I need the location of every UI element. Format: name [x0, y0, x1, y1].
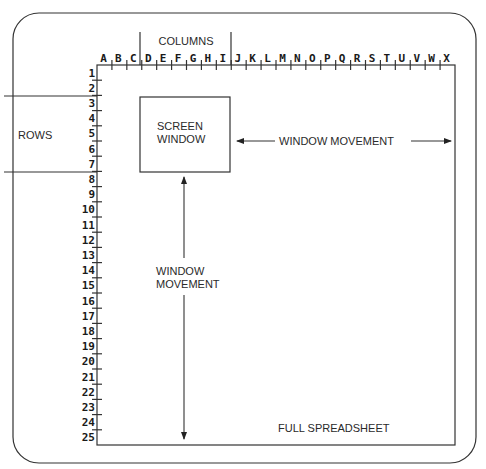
row-header: 11	[82, 219, 96, 232]
row-header: 25	[82, 431, 95, 444]
row-header: 16	[82, 295, 96, 308]
column-header: N	[294, 52, 301, 65]
row-header: 3	[88, 97, 95, 110]
row-header: 2	[88, 82, 95, 95]
row-header: 1	[88, 67, 95, 80]
horizontal-movement-label: WINDOW MOVEMENT	[279, 135, 394, 147]
column-headers: ABCDEFGHIJKLMNOPQRSTUVWX	[100, 52, 450, 65]
row-header: 13	[82, 249, 95, 262]
row-header: 15	[82, 279, 95, 292]
row-header: 22	[82, 386, 95, 399]
rows-label: ROWS	[18, 129, 52, 141]
row-header: 10	[82, 203, 95, 216]
vertical-movement-label-line2: MOVEMENT	[156, 278, 220, 290]
column-header: T	[384, 52, 391, 65]
screen-window-label-line2: WINDOW	[157, 133, 206, 145]
column-header: P	[324, 52, 331, 65]
full-spreadsheet-label: FULL SPREADSHEET	[278, 422, 390, 434]
vertical-movement-label-line1: WINDOW	[156, 265, 205, 277]
row-header: 21	[82, 371, 96, 384]
row-header: 24	[82, 416, 96, 429]
row-header: 6	[88, 143, 95, 156]
column-header: J	[234, 52, 241, 65]
column-header: G	[190, 52, 197, 65]
row-header: 9	[88, 188, 95, 201]
row-header: 4	[88, 112, 95, 125]
row-header: 19	[82, 340, 95, 353]
row-headers: 1234567891011121314151617181920212223242…	[82, 67, 96, 445]
row-header: 23	[82, 401, 95, 414]
column-header: F	[175, 52, 182, 65]
row-header: 12	[82, 234, 95, 247]
column-header: Q	[339, 52, 346, 65]
row-header: 17	[82, 310, 95, 323]
column-header: K	[249, 52, 256, 65]
screen-window-label-line1: SCREEN	[157, 120, 203, 132]
row-header: 8	[88, 173, 95, 186]
column-header: M	[279, 52, 286, 65]
column-header: L	[264, 52, 271, 65]
row-header: 5	[88, 127, 95, 140]
column-header: E	[160, 52, 167, 65]
full-spreadsheet-area	[97, 65, 455, 445]
column-header: W	[428, 52, 435, 65]
column-header: R	[354, 52, 361, 65]
columns-label: COLUMNS	[158, 35, 213, 47]
column-header: C	[130, 52, 137, 65]
column-header: O	[309, 52, 316, 65]
column-header: X	[443, 52, 450, 65]
column-header: S	[369, 52, 376, 65]
row-header: 7	[88, 158, 95, 171]
row-header: 20	[82, 355, 95, 368]
spreadsheet-window-diagram: ABCDEFGHIJKLMNOPQRSTUVWX 123456789101112…	[0, 0, 486, 469]
column-header: H	[205, 52, 212, 65]
row-header: 18	[82, 325, 95, 338]
column-header: B	[115, 52, 122, 65]
column-header: D	[145, 52, 152, 65]
column-header: V	[413, 52, 420, 65]
column-header: I	[219, 52, 226, 65]
row-header: 14	[82, 264, 96, 277]
column-header: U	[398, 52, 405, 65]
column-header: A	[100, 52, 107, 65]
